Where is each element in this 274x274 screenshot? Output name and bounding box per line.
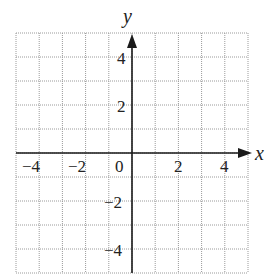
x-tick-label: 4 [220, 157, 229, 176]
x-tick-label: −2 [68, 157, 86, 176]
y-axis-arrow-icon [127, 34, 137, 48]
x-tick-label: 2 [174, 157, 183, 176]
x-axis-arrow-icon [238, 148, 252, 158]
y-tick-label: 4 [117, 49, 126, 68]
coordinate-plane: x y −4 −2 0 2 4 4 2 −2 −4 [0, 0, 274, 274]
y-tick-label: −4 [104, 241, 123, 260]
origin-label: 0 [115, 157, 124, 176]
y-axis-title: y [121, 5, 132, 28]
y-tick-label: 2 [117, 97, 126, 116]
y-tick-label: −2 [104, 193, 122, 212]
x-tick-label: −4 [22, 157, 41, 176]
x-axis-title: x [254, 142, 264, 164]
